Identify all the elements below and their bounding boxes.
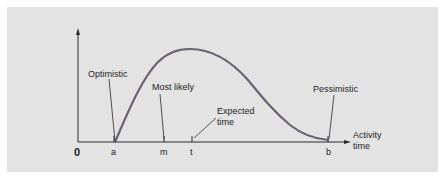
tick-label-b: b xyxy=(326,147,331,157)
pessimistic-label: Pessimistic xyxy=(313,84,359,94)
expected-label-line1: Expected xyxy=(217,106,255,116)
distribution-curve xyxy=(115,49,328,142)
pessimistic-leader xyxy=(329,95,334,139)
y-axis-arrow-icon xyxy=(76,28,80,35)
origin-label: 0 xyxy=(74,146,80,158)
tick-label-t: t xyxy=(190,147,193,157)
expected-label-line2: time xyxy=(217,117,234,127)
expected-leader xyxy=(194,118,216,138)
tick-label-m: m xyxy=(160,147,168,157)
optimistic-leader xyxy=(109,79,115,141)
tick-label-a: a xyxy=(111,147,116,157)
x-axis-arrow-icon xyxy=(344,140,351,144)
most-likely-label: Most likely xyxy=(152,82,195,92)
beta-distribution-diagram: Optimistic Most likely Expected time Pes… xyxy=(0,0,446,177)
most-likely-leader xyxy=(160,94,164,139)
x-axis-label-line2: time xyxy=(353,141,370,151)
optimistic-label: Optimistic xyxy=(88,69,128,79)
x-axis-label-line1: Activity xyxy=(353,130,382,140)
